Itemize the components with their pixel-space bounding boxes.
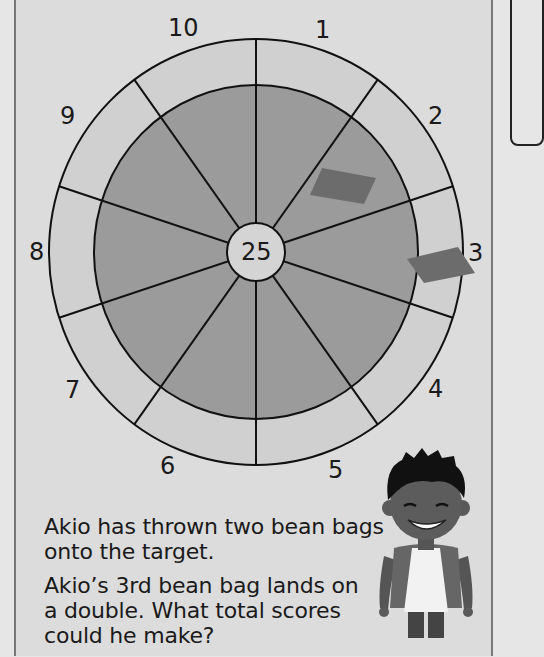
sector-label-7: 7 [65, 378, 80, 402]
side-note-box [510, 0, 544, 146]
sector-label-4: 4 [428, 377, 443, 401]
sector-label-5: 5 [328, 458, 343, 482]
sector-label-2: 2 [428, 104, 443, 128]
sector-label-1: 1 [315, 18, 330, 42]
bullseye-label: 25 [241, 240, 272, 264]
sector-label-8: 8 [29, 240, 44, 264]
akio-character-illustration [372, 448, 482, 638]
question-paragraph-1: Akio has thrown two bean bags onto the t… [44, 514, 384, 564]
question-paragraph-2: Akio’s 3rd bean bag lands on a double. W… [44, 573, 384, 648]
sector-label-10: 10 [168, 16, 199, 40]
question-text: Akio has thrown two bean bags onto the t… [44, 514, 384, 657]
sector-label-6: 6 [160, 454, 175, 478]
sector-label-3: 3 [468, 241, 483, 265]
sector-label-9: 9 [60, 104, 75, 128]
